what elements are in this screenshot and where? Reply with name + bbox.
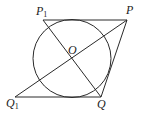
segment-p-q <box>101 20 127 97</box>
segment-p-q1 <box>15 20 127 97</box>
segment-p1-q <box>43 20 101 97</box>
label-q: Q <box>97 97 106 111</box>
label-o: O <box>68 43 77 57</box>
figure-canvas: P1 P Q1 Q O <box>0 0 141 115</box>
geometry-figure: P1 P Q1 Q O <box>0 0 141 115</box>
label-p: P <box>125 3 134 17</box>
label-p1: P1 <box>35 4 47 19</box>
label-q1: Q1 <box>6 96 19 111</box>
